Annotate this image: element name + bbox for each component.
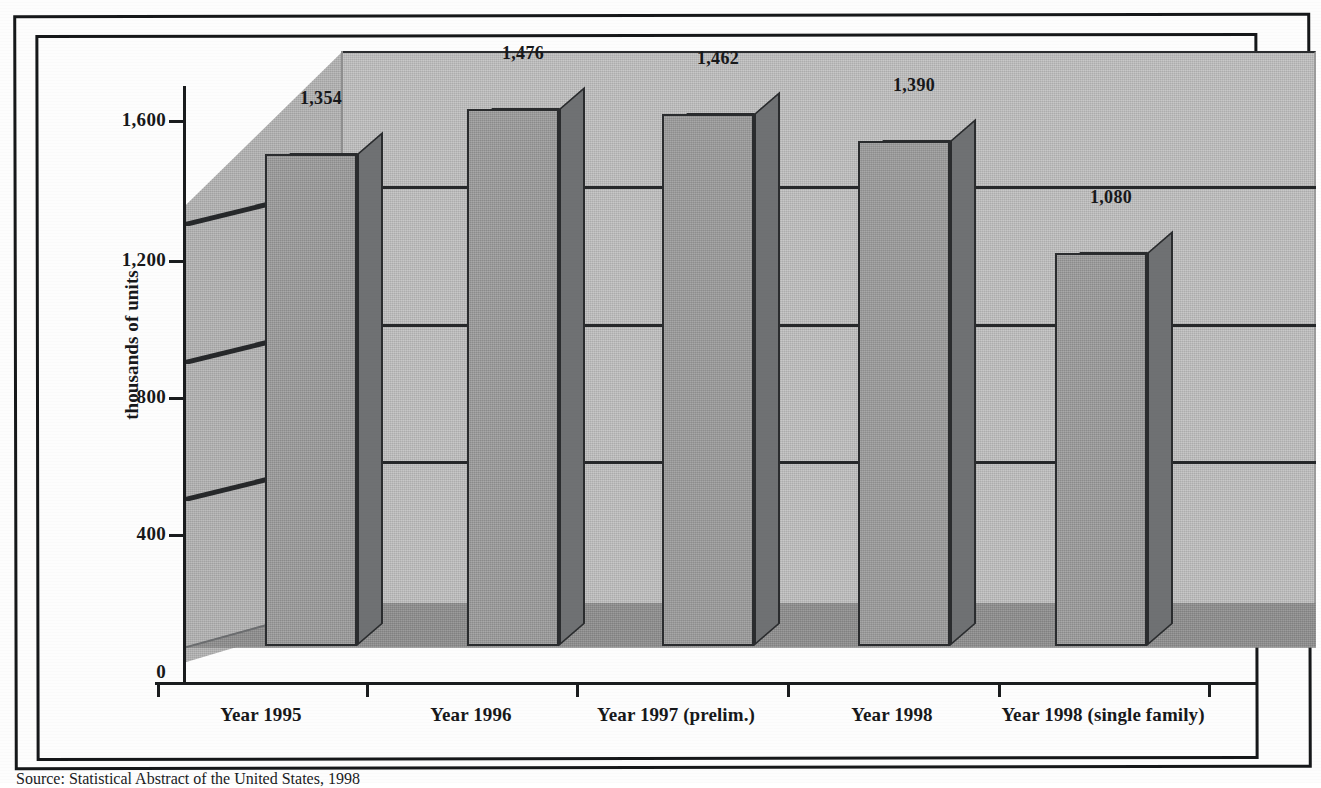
bar-side-face [754, 91, 780, 646]
x-tick-mark [157, 682, 160, 697]
x-axis-label-year-1997-prelim: Year 1997 (prelim.) [556, 704, 796, 726]
y-tick-mark [169, 397, 184, 400]
bar-year-1995[interactable]: 1,354 [265, 154, 357, 646]
bar-front-face [662, 114, 754, 646]
x-axis-label-year-1995: Year 1995 [161, 704, 361, 726]
x-axis-label-year-1998-single-family: Year 1998 (single family) [983, 704, 1223, 726]
y-tick-mark [169, 534, 184, 537]
bar-side-face [357, 131, 383, 646]
bar-year-1996[interactable]: 1,476 [467, 109, 559, 646]
bars-group: 1,354 1,476 1,462 [155, 46, 1255, 670]
bar-year-1998-single-family[interactable]: 1,080 [1055, 253, 1147, 646]
plot-area: 1,354 1,476 1,462 [155, 46, 1255, 670]
bar-value-label: 1,462 [648, 48, 788, 69]
y-tick-mark [169, 120, 184, 123]
y-axis-tick-labels: 1,600 1,200 800 400 0 [80, 34, 166, 760]
bar-side-face [950, 118, 976, 646]
x-tick-mark [787, 682, 790, 697]
bar-year-1998[interactable]: 1,390 [858, 141, 950, 646]
bar-year-1997-prelim[interactable]: 1,462 [662, 114, 754, 646]
bar-value-label: 1,390 [844, 75, 984, 96]
bar-front-face [265, 154, 357, 646]
x-axis-line [155, 682, 1256, 685]
y-axis-line [183, 86, 186, 685]
x-tick-mark [366, 682, 369, 697]
bar-chart: thousands of units 1,600 1,200 800 400 0 [36, 34, 1258, 760]
bar-value-label: 1,476 [453, 43, 593, 64]
source-caption: Source: Statistical Abstract of the Unit… [16, 770, 1296, 788]
x-tick-mark [1208, 682, 1211, 697]
x-axis-label-year-1996: Year 1996 [371, 704, 571, 726]
x-axis-label-year-1998: Year 1998 [792, 704, 992, 726]
y-tick-mark [169, 260, 184, 263]
x-tick-mark [998, 682, 1001, 697]
x-tick-mark [576, 682, 579, 697]
bar-value-label: 1,080 [1041, 187, 1181, 208]
bar-value-label: 1,354 [251, 88, 391, 109]
bar-front-face [467, 109, 559, 646]
bar-side-face [559, 86, 585, 646]
bar-front-face [1055, 253, 1147, 646]
bar-front-face [858, 141, 950, 646]
bar-side-face [1147, 230, 1173, 646]
